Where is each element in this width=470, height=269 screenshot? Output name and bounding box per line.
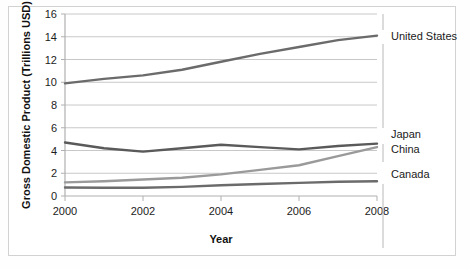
x-tick-label-2008: 2008 xyxy=(365,205,389,217)
y-tick-label-8: 8 xyxy=(51,99,57,111)
y-tick-label-16: 16 xyxy=(45,8,57,20)
y-tick-label-10: 10 xyxy=(45,76,57,88)
line-chart: 024681012141620002002200420062008YearGro… xyxy=(0,0,470,269)
series-line-china xyxy=(65,147,377,182)
y-tick-label-12: 12 xyxy=(45,54,57,66)
series-label-united-states: United States xyxy=(391,30,458,42)
y-tick-label-6: 6 xyxy=(51,122,57,134)
x-tick-label-2004: 2004 xyxy=(209,205,233,217)
x-tick-label-2006: 2006 xyxy=(287,205,311,217)
y-tick-label-14: 14 xyxy=(45,31,57,43)
series-label-canada: Canada xyxy=(391,168,430,180)
series-label-china: China xyxy=(391,143,421,155)
y-tick-label-4: 4 xyxy=(51,145,57,157)
y-axis-title: Gross Domestic Product (Trillions USD) xyxy=(20,1,32,209)
series-line-canada xyxy=(65,181,377,188)
x-axis-title: Year xyxy=(209,233,233,245)
y-tick-label-2: 2 xyxy=(51,167,57,179)
x-tick-label-2000: 2000 xyxy=(53,205,77,217)
x-tick-label-2002: 2002 xyxy=(131,205,155,217)
series-label-japan: Japan xyxy=(391,128,421,140)
chart-figure: 024681012141620002002200420062008YearGro… xyxy=(0,0,470,269)
y-tick-label-0: 0 xyxy=(51,190,57,202)
